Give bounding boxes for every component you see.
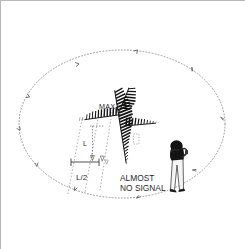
null-region-marker <box>134 134 140 144</box>
figure-receiver <box>185 150 188 154</box>
figure-frame: L L/2 <box>0 0 245 249</box>
almost-no-signal-label-line2: NO SIGNAL <box>120 183 166 193</box>
pattern-arm-right <box>123 115 158 126</box>
dimension-l-half: L/2 <box>71 159 99 183</box>
dimension-l-half-label: L/2 <box>76 173 88 182</box>
figure-head <box>170 140 182 152</box>
figure-stage: L L/2 <box>0 0 245 249</box>
antenna-pattern-diagram: L L/2 <box>0 0 245 249</box>
max-label: MAX <box>99 102 115 111</box>
dimension-l-label: L <box>83 140 87 147</box>
walking-observer-figure <box>170 140 188 192</box>
figure-legs <box>171 158 184 191</box>
dimension-guide-lines <box>68 112 112 194</box>
almost-no-signal-label-line1: ALMOST <box>120 173 154 183</box>
